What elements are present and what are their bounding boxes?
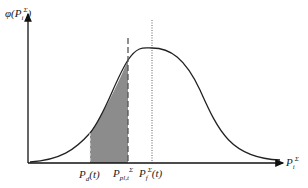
y-axis-label: φ(PiΣ) (5, 6, 31, 22)
diagram-canvas (0, 0, 308, 188)
marker-label-ppl: Ppl,tΣ (113, 166, 133, 182)
marker-label-pf: PfΣ(t) (139, 166, 162, 182)
x-axis-label: PiΣ (286, 155, 299, 171)
shaded-region (90, 60, 128, 163)
marker-label-pd: Pd(t) (79, 168, 100, 183)
bell-curve (30, 48, 280, 162)
